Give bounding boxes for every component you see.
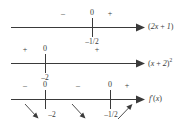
axis-arrowhead-2 bbox=[136, 60, 145, 68]
zero-mark-neg-two: 0 bbox=[43, 45, 47, 53]
number-line-f-prime bbox=[11, 90, 145, 109]
slope-arrow-increasing bbox=[118, 104, 133, 119]
number-line-2x-plus-1 bbox=[11, 18, 145, 37]
zero-mark-neg-one-half: 0 bbox=[90, 9, 94, 17]
paren-close: ) bbox=[159, 94, 162, 103]
exponent: 2 bbox=[169, 57, 172, 63]
sign-positive-left: + bbox=[23, 46, 28, 54]
axis-arrowhead-1 bbox=[136, 24, 145, 32]
slope-arrow-decreasing-1 bbox=[25, 104, 39, 119]
plus-operator: + bbox=[154, 59, 163, 68]
sign-negative-left: – bbox=[23, 82, 27, 90]
zero-mark-neg-one-half: 0 bbox=[108, 81, 112, 89]
slope-arrow-decreasing-2 bbox=[72, 104, 86, 119]
sign-negative-middle: – bbox=[76, 82, 80, 90]
sign-positive-right: + bbox=[95, 46, 100, 54]
sign-positive-right: + bbox=[125, 82, 130, 90]
plus-operator: + bbox=[158, 22, 167, 31]
expression-label-f-prime: f′(x) bbox=[149, 95, 162, 103]
expression-label-x-plus-2-squared: (x + 2)2 bbox=[148, 58, 172, 68]
tick-label-neg-two: –2 bbox=[48, 111, 56, 119]
tick-label-neg-one-half: –1/2 bbox=[104, 111, 117, 119]
sign-negative: – bbox=[61, 10, 65, 18]
zero-mark-neg-two: 0 bbox=[43, 81, 47, 89]
axis-arrowhead-3 bbox=[136, 96, 145, 104]
sign-chart-figure: – 0 + –1/2 (2x + 1) + 0 + –2 (x + 2)2 – … bbox=[0, 0, 184, 128]
sign-positive: + bbox=[108, 10, 113, 18]
expression-label-2x-plus-1: (2x + 1) bbox=[148, 23, 173, 31]
paren-close: ) bbox=[171, 22, 174, 31]
number-line-x-plus-2-squared bbox=[11, 54, 145, 73]
